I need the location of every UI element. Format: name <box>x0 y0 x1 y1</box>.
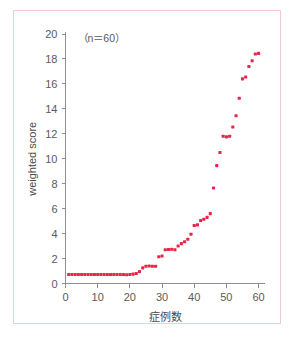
data-point <box>138 270 141 273</box>
data-point <box>125 273 128 276</box>
data-point <box>196 223 199 226</box>
y-axis-ticks: 02468101214161820 <box>45 28 65 290</box>
data-point <box>144 265 147 268</box>
data-point <box>119 273 122 276</box>
x-tick-label: 10 <box>92 291 104 303</box>
y-tick-label: 14 <box>45 103 57 115</box>
data-point <box>132 273 135 276</box>
data-point <box>209 212 212 215</box>
x-axis-title: 症例数 <box>149 310 182 323</box>
y-tick-label: 4 <box>51 228 57 240</box>
y-tick-label: 12 <box>45 128 57 140</box>
data-point <box>93 273 96 276</box>
x-tick-label: 50 <box>220 291 232 303</box>
data-point <box>164 248 167 251</box>
data-point <box>199 219 202 222</box>
data-point <box>99 273 102 276</box>
x-tick-label: 40 <box>188 291 200 303</box>
data-point <box>206 216 209 219</box>
y-axis-title: weighted score <box>26 122 38 197</box>
data-point <box>183 240 186 243</box>
data-point <box>154 265 157 268</box>
data-points <box>67 52 260 277</box>
scatter-chart: 02468101214161820 0102030405060 weighted… <box>0 0 296 338</box>
x-tick-label: 0 <box>62 291 68 303</box>
data-point <box>106 273 109 276</box>
figure-container: 02468101214161820 0102030405060 weighted… <box>0 0 296 338</box>
data-point <box>148 264 151 267</box>
data-point <box>244 75 247 78</box>
data-point <box>234 114 237 117</box>
data-point <box>251 59 254 62</box>
data-point <box>135 272 138 275</box>
y-tick-label: 18 <box>45 53 57 65</box>
data-point <box>128 273 131 276</box>
data-point <box>170 248 173 251</box>
axes <box>66 32 266 284</box>
data-point <box>218 151 221 154</box>
x-tick-label: 20 <box>124 291 136 303</box>
y-tick-label: 0 <box>51 278 57 290</box>
data-point <box>173 248 176 251</box>
y-tick-label: 20 <box>45 28 57 40</box>
data-point <box>141 266 144 269</box>
data-point <box>231 125 234 128</box>
y-tick-label: 10 <box>45 153 57 165</box>
data-point <box>225 135 228 138</box>
y-tick-label: 2 <box>51 253 57 265</box>
data-point <box>241 77 244 80</box>
data-point <box>96 273 99 276</box>
data-point <box>115 273 118 276</box>
data-point <box>180 242 183 245</box>
data-point <box>228 135 231 138</box>
data-point <box>157 255 160 258</box>
data-point <box>67 273 70 276</box>
data-point <box>193 224 196 227</box>
data-point <box>80 273 83 276</box>
data-point <box>212 187 215 190</box>
data-point <box>151 265 154 268</box>
data-point <box>167 248 170 251</box>
x-axis-ticks: 0102030405060 <box>62 284 264 303</box>
data-point <box>254 52 257 55</box>
data-point <box>70 273 73 276</box>
data-point <box>103 273 106 276</box>
data-point <box>122 273 125 276</box>
sample-size-annotation: （n＝60） <box>78 32 126 44</box>
data-point <box>222 135 225 138</box>
data-point <box>215 164 218 167</box>
y-tick-label: 16 <box>45 78 57 90</box>
data-point <box>189 233 192 236</box>
data-point <box>160 255 163 258</box>
x-tick-label: 30 <box>156 291 168 303</box>
data-point <box>86 273 89 276</box>
data-point <box>177 245 180 248</box>
data-point <box>109 273 112 276</box>
y-tick-label: 8 <box>51 178 57 190</box>
data-point <box>257 52 260 55</box>
data-point <box>83 273 86 276</box>
x-tick-label: 60 <box>252 291 264 303</box>
data-point <box>202 218 205 221</box>
data-point <box>112 273 115 276</box>
data-point <box>74 273 77 276</box>
data-point <box>90 273 93 276</box>
data-point <box>186 238 189 241</box>
data-point <box>77 273 80 276</box>
data-point <box>238 97 241 100</box>
data-point <box>247 65 250 68</box>
y-tick-label: 6 <box>51 203 57 215</box>
